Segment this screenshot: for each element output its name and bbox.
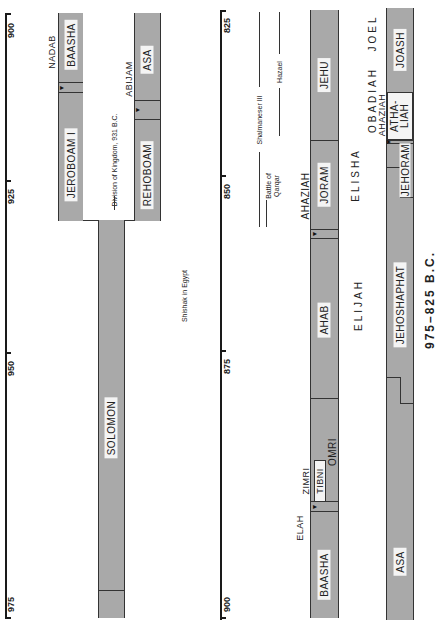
tick-label-950: 950 xyxy=(6,361,16,376)
event-battle-of-qarqar: Battle of Qarqar xyxy=(265,171,281,201)
prophet-joel: JOEL xyxy=(366,11,379,54)
segment-divider xyxy=(134,100,161,101)
shalmaneser-span-line xyxy=(259,12,260,87)
tick-875 xyxy=(220,350,226,352)
ahaziah-pointer-arrow-icon: ▸ xyxy=(313,230,317,238)
king-baasha-right: BAASHA xyxy=(318,550,331,600)
tick-label-925: 925 xyxy=(6,189,16,204)
tick-900 xyxy=(220,617,226,619)
division-arrow-icon xyxy=(114,196,115,210)
king-tibni: TIBNI xyxy=(315,468,325,494)
king-abijam: ABIJAM xyxy=(124,61,134,97)
king-rehoboam: REHOBOAM xyxy=(141,141,154,209)
jehoshaphat-step-vertical xyxy=(400,377,401,403)
tick-900 xyxy=(5,13,11,15)
king-jehu: JEHU xyxy=(318,58,331,92)
segment-divider xyxy=(134,119,161,120)
king-ahaziah-israel: AHAZIAH xyxy=(300,173,311,220)
tick-label-900: 900 xyxy=(6,23,16,38)
segment-divider xyxy=(310,511,339,512)
king-jehoshaphat: JEHOSHAPHAT xyxy=(394,263,407,348)
tick-925 xyxy=(5,180,11,182)
tick-975 xyxy=(5,617,11,619)
elah-pointer-arrow-icon: ▸ xyxy=(313,503,317,511)
tick-825 xyxy=(220,10,226,12)
king-omri: OMRI xyxy=(327,438,338,466)
king-asa-right: ASA xyxy=(394,548,407,576)
qarqar-arrow-icon xyxy=(266,200,267,227)
nadab-pointer-arrow-icon: ▸ xyxy=(60,84,64,92)
prophet-elijah: ELIJAH xyxy=(352,276,365,334)
king-ahab: AHAB xyxy=(318,302,331,337)
event-hazael: Hazael xyxy=(276,61,283,83)
king-joash: JOASH xyxy=(394,29,407,71)
jehoshaphat-step-top xyxy=(386,377,400,378)
king-athaliah: ATHA- LIAH xyxy=(390,100,410,132)
king-solomon: SOLOMON xyxy=(105,398,118,459)
chart-title: 975–825 B.C. xyxy=(422,248,438,352)
king-jeroboam-i: JEROBOAM I xyxy=(65,129,78,202)
hazael-span-line xyxy=(279,12,280,54)
event-division-of-kingdom: Division of Kingdom, 931 B.C. xyxy=(111,114,118,207)
tick-label-900-right: 900 xyxy=(222,597,232,612)
event-shalmaneser-iii: Shalmaneser III xyxy=(256,95,263,144)
prophet-elisha: ELISHA xyxy=(349,145,362,205)
king-elah: ELAH xyxy=(295,515,305,541)
king-jehoram: JEHORAM xyxy=(400,143,411,197)
segment-divider xyxy=(58,92,84,93)
king-ahaziah-judah: AHAZIAH xyxy=(377,94,387,137)
tick-label-975: 975 xyxy=(6,597,16,612)
left-time-axis xyxy=(5,13,7,619)
segment-divider xyxy=(310,140,339,141)
king-nadab: NADAB xyxy=(47,35,57,69)
division-gap xyxy=(83,13,135,221)
segment-divider xyxy=(98,590,125,591)
segment-divider xyxy=(310,398,339,399)
abijam-pointer-arrow-icon: ▸ xyxy=(136,106,140,114)
segment-divider xyxy=(310,238,339,239)
right-time-axis xyxy=(220,10,222,620)
king-zimri: ZIMRI xyxy=(301,468,311,495)
tick-label-875: 875 xyxy=(222,359,232,374)
jehoshaphat-step-bottom xyxy=(400,403,414,404)
king-baasha: BAASHA xyxy=(65,20,78,70)
king-asa: ASA xyxy=(141,46,154,74)
king-joram: JORAM xyxy=(318,163,331,207)
shalmaneser-arrow-icon xyxy=(259,152,260,227)
tick-950 xyxy=(5,352,11,354)
hazael-arrow-icon xyxy=(279,88,280,136)
tick-850 xyxy=(220,175,226,177)
ahaziah-judah-pointer-arrow-icon: ▸ xyxy=(387,138,391,146)
jehoram-step-top xyxy=(386,167,400,168)
tick-label-825: 825 xyxy=(222,18,232,33)
event-shishak-in-egypt: Shishak in Egypt xyxy=(181,270,188,322)
tick-label-850: 850 xyxy=(222,184,232,199)
